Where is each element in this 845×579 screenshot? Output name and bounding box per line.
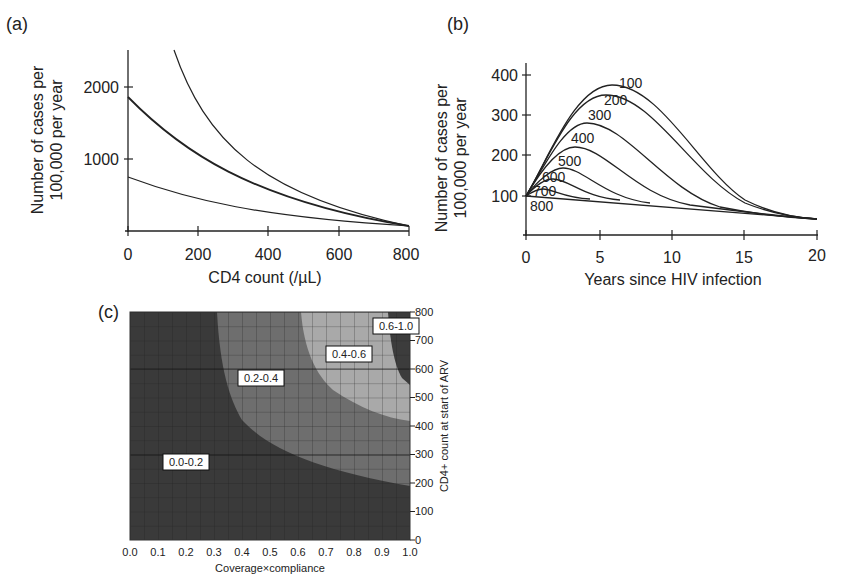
panel-c-xtick: 0.2	[178, 546, 193, 558]
panel-a: (a) 2000 1000 0 200 400 600 800 CD4 coun…	[6, 14, 419, 286]
panel-a-ylabel-line2: 100,000 per year	[48, 79, 65, 201]
panel-a-xtick: 600	[326, 246, 353, 263]
panel-c-xtick: 0.5	[262, 546, 277, 558]
panel-c-xtick: 0.3	[206, 546, 221, 558]
panel-b-xtick: 20	[808, 247, 826, 264]
panel-b-curve-label: 500	[558, 153, 582, 169]
panel-b-curve-label: 400	[571, 130, 595, 146]
svg-text:0.6-1.0: 0.6-1.0	[379, 320, 413, 332]
panel-b-ytick: 300	[491, 107, 518, 124]
region-label-0.2-0.4: 0.2-0.4	[238, 370, 284, 386]
svg-text:0.2-0.4: 0.2-0.4	[244, 372, 278, 384]
panel-c-xtick: 0.1	[150, 546, 165, 558]
panel-a-ytick: 1000	[83, 151, 119, 168]
region-label-0.4-0.6: 0.4-0.6	[326, 346, 372, 362]
panel-c-ytick: 0	[415, 534, 421, 546]
panel-c-ytick: 100	[415, 505, 433, 517]
panel-a-curve-middle	[128, 97, 409, 226]
svg-text:0.4-0.6: 0.4-0.6	[332, 348, 366, 360]
panel-a-curve-upper	[174, 50, 409, 226]
panel-a-xtick: 200	[185, 246, 212, 263]
panel-b-xtick: 10	[663, 249, 681, 266]
panel-a-ytick: 2000	[83, 79, 119, 96]
panel-b-label: (b)	[447, 14, 469, 34]
panel-b-xtick: 15	[735, 249, 753, 266]
panel-b-xtick: 5	[596, 249, 605, 266]
panel-a-xtick: 400	[255, 246, 282, 263]
panel-b-curve-label: 700	[533, 183, 557, 199]
panel-b-xtick: 0	[522, 249, 531, 266]
panel-c-ylabel: CD4+ count at start of ARV	[438, 359, 450, 492]
figure: (a) 2000 1000 0 200 400 600 800 CD4 coun…	[0, 0, 845, 579]
panel-c-xtick: 0.8	[346, 546, 361, 558]
panel-b: (b) 400 300 200 100 0 5 10 15 20 Years s…	[433, 14, 826, 288]
region-label-0.6-1.0: 0.6-1.0	[373, 318, 419, 334]
panel-c-xtick: 0.7	[318, 546, 333, 558]
panel-b-curve-label: 200	[604, 92, 628, 108]
panel-c-xtick: 0.0	[122, 546, 137, 558]
panel-c-xtick: 1.0	[402, 546, 417, 558]
panel-b-curve-label: 800	[530, 198, 554, 214]
panel-c-xtick: 0.6	[290, 546, 305, 558]
panel-c-label: (c)	[98, 302, 119, 322]
panel-c: (c)	[98, 302, 450, 574]
panel-c-ytick: 600	[415, 363, 433, 375]
panel-b-xlabel: Years since HIV infection	[584, 271, 761, 288]
panel-c-bottom-axis: 0.0 0.1 0.2 0.3 0.4 0.5 0.6 0.7 0.8 0.9 …	[122, 546, 417, 574]
panel-c-ytick: 700	[415, 334, 433, 346]
panel-c-ytick: 200	[415, 477, 433, 489]
panel-a-label: (a)	[6, 14, 28, 34]
panel-a-xlabel: CD4 count (/µL)	[208, 269, 321, 286]
panel-b-ytick: 200	[491, 147, 518, 164]
panel-b-ytick: 100	[491, 188, 518, 205]
panel-b-ylabel-line1: Number of cases per	[433, 83, 450, 232]
panel-b-ytick: 400	[491, 67, 518, 84]
panel-c-ytick: 400	[415, 420, 433, 432]
panel-b-ylabel-line2: 100,000 per year	[452, 97, 469, 219]
panel-c-xtick: 0.4	[234, 546, 249, 558]
panel-c-right-axis: 0 100 200 300 400 500 600 700 800 CD4+ c…	[410, 306, 450, 546]
region-label-0.0-0.2: 0.0-0.2	[163, 454, 209, 470]
panel-a-xtick: 0	[124, 246, 133, 263]
panel-b-curve-label: 300	[588, 107, 612, 123]
panel-c-ytick: 800	[415, 306, 433, 318]
panel-c-xtick: 0.9	[374, 546, 389, 558]
panel-a-xtick: 800	[393, 246, 420, 263]
panel-a-ylabel-line1: Number of cases per	[29, 65, 46, 214]
panel-c-ytick: 500	[415, 391, 433, 403]
panel-c-ytick: 300	[415, 448, 433, 460]
panel-c-xlabel: Coverage×compliance	[215, 562, 325, 574]
svg-text:0.0-0.2: 0.0-0.2	[169, 456, 203, 468]
panel-b-curve-label: 100	[619, 75, 643, 91]
